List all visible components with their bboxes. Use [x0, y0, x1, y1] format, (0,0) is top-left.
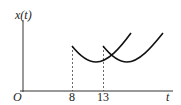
curve-1	[72, 33, 131, 62]
y-axis-label: x(t)	[14, 8, 32, 22]
origin-label: O	[13, 90, 22, 104]
tick-label-13: 13	[97, 90, 109, 104]
tick-label-8: 8	[69, 90, 75, 104]
curve-2	[103, 33, 163, 62]
chart: x(t) O 8 13 t	[0, 0, 181, 105]
x-axis-label: t	[166, 90, 170, 104]
